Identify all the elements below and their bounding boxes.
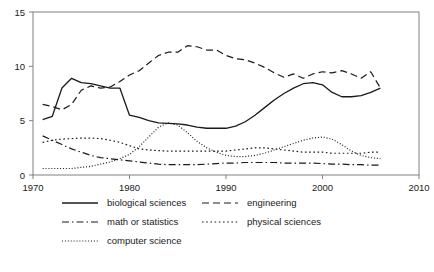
series-line-biological-sciences xyxy=(43,78,381,128)
legend-item-engineering[interactable]: engineering xyxy=(201,196,373,210)
x-tick-label: 1970 xyxy=(22,182,43,193)
y-tick-label: 5 xyxy=(20,115,25,126)
chart-legend: biological sciencesengineeringmath or st… xyxy=(0,196,434,254)
legend-item-biological-sciences[interactable]: biological sciences xyxy=(61,196,201,210)
legend-item-physical-sciences[interactable]: physical sciences xyxy=(201,215,373,229)
legend-item-label: math or statistics xyxy=(107,216,178,228)
series-line-physical-sciences xyxy=(43,138,381,153)
legend-grid: biological sciencesengineeringmath or st… xyxy=(0,196,434,248)
y-tick-label: 15 xyxy=(14,7,25,18)
x-tick-label: 1990 xyxy=(215,182,236,193)
legend-line-sample-icon xyxy=(201,216,239,228)
line-chart-svg: 19701980199020002010051015 xyxy=(0,0,434,200)
series-line-engineering xyxy=(43,46,381,110)
legend-item-label: computer science xyxy=(107,235,181,247)
legend-item-label: engineering xyxy=(247,197,297,209)
y-tick-label: 10 xyxy=(14,61,25,72)
chart-series-lines xyxy=(43,46,381,169)
legend-item-label: biological sciences xyxy=(107,197,186,209)
figure-caption xyxy=(6,262,426,272)
x-tick-label: 1980 xyxy=(119,182,140,193)
y-tick-label: 0 xyxy=(20,170,25,181)
x-tick-label: 2000 xyxy=(312,182,333,193)
legend-line-sample-icon xyxy=(201,197,239,209)
legend-item-label: physical sciences xyxy=(247,216,321,228)
legend-line-sample-icon xyxy=(61,235,99,247)
x-tick-label: 2010 xyxy=(408,182,429,193)
legend-line-sample-icon xyxy=(61,197,99,209)
legend-item-math-or-statistics[interactable]: math or statistics xyxy=(61,215,201,229)
legend-line-sample-icon xyxy=(61,216,99,228)
figure: 19701980199020002010051015 biological sc… xyxy=(0,0,434,272)
chart-plot-area: 19701980199020002010051015 xyxy=(0,0,434,200)
legend-item-computer-science[interactable]: computer science xyxy=(61,234,201,248)
series-line-computer-science xyxy=(43,123,381,169)
